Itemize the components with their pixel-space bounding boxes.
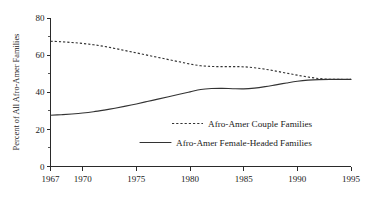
- x-axis-ticks: [51, 167, 352, 171]
- x-tick-label: 1980: [181, 174, 200, 184]
- legend-label-couple-families: Afro-Amer Couple Families: [208, 119, 313, 129]
- legend: Afro-Amer Couple Families Afro-Amer Fema…: [140, 119, 313, 148]
- y-axis-title: Percent of All Afro-Amer Families: [12, 34, 21, 151]
- y-tick-label: 60: [36, 50, 46, 60]
- y-tick-label: 0: [40, 162, 45, 172]
- y-axis-ticks: [47, 18, 51, 167]
- x-tick-label: 1967: [42, 174, 61, 184]
- x-tick-label: 1995: [342, 174, 361, 184]
- x-tick-label: 1975: [127, 174, 146, 184]
- line-chart: Percent of All Afro-Amer Families 020406…: [0, 0, 369, 200]
- y-tick-label: 40: [36, 87, 46, 97]
- x-tick-label: 1970: [74, 174, 93, 184]
- x-axis-tick-labels: 1967197019751980198519901995: [42, 174, 361, 184]
- x-tick-label: 1985: [235, 174, 254, 184]
- y-tick-label: 80: [36, 13, 46, 23]
- legend-label-female-headed-families: Afro-Amer Female-Headed Families: [176, 138, 312, 148]
- series-line-female-headed-families: [51, 79, 352, 115]
- y-axis-tick-labels: 020406080: [36, 13, 46, 172]
- x-tick-label: 1990: [288, 174, 307, 184]
- chart-container: Percent of All Afro-Amer Families 020406…: [0, 0, 369, 200]
- y-tick-label: 20: [36, 125, 46, 135]
- series-line-couple-families: [51, 41, 352, 79]
